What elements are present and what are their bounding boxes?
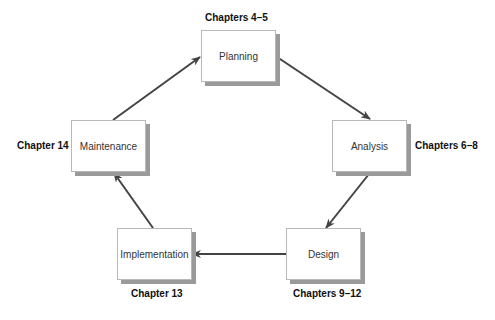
- stage-box-maintenance: Maintenance: [71, 120, 146, 172]
- arrow-analysis-to-design: [326, 174, 369, 228]
- stage-name-implementation: Implementation: [120, 249, 188, 260]
- stage-name-analysis: Analysis: [351, 141, 388, 152]
- stage-name-design: Design: [308, 249, 339, 260]
- stage-box-planning: Planning: [201, 30, 276, 82]
- chapter-label-planning: Chapters 4–5: [205, 12, 268, 23]
- stage-name-maintenance: Maintenance: [80, 141, 137, 152]
- chapter-label-implementation: Chapter 13: [131, 288, 183, 299]
- arrow-implementation-to-maintenance: [114, 173, 153, 228]
- arrow-maintenance-to-planning: [113, 57, 200, 120]
- arrow-planning-to-analysis: [277, 57, 370, 119]
- chapter-label-analysis: Chapters 6–8: [415, 140, 478, 151]
- chapter-label-maintenance: Chapter 14: [17, 140, 69, 151]
- stage-box-design: Design: [286, 228, 361, 280]
- stage-box-analysis: Analysis: [332, 120, 407, 172]
- stage-name-planning: Planning: [219, 51, 258, 62]
- chapter-label-design: Chapters 9–12: [293, 288, 361, 299]
- stage-box-implementation: Implementation: [117, 228, 192, 280]
